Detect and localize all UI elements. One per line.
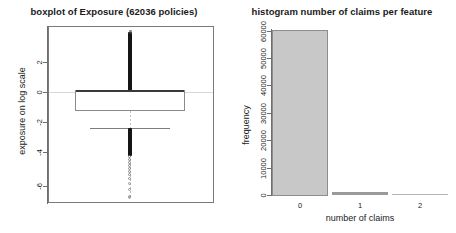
histogram-bar-0 — [272, 30, 328, 196]
histogram-ytick-label-0: 0 — [259, 183, 268, 209]
histogram-bar-2 — [392, 194, 448, 195]
boxplot-ytick-label-2: 2 — [35, 52, 44, 74]
boxplot-lower-outlier-cloud-dense — [128, 128, 132, 156]
histogram-xtick-label-0: 0 — [290, 201, 310, 210]
boxplot-upper-outlier-tip — [129, 30, 132, 34]
boxplot-extreme-outlier-point — [128, 196, 131, 199]
boxplot-panel: boxplot of Exposure (62036 policies) exp… — [0, 0, 228, 233]
boxplot-y-axis-title: exposure on log scale — [17, 51, 27, 171]
boxplot-outlier-point — [128, 177, 131, 180]
figure-canvas: boxplot of Exposure (62036 policies) exp… — [0, 0, 456, 233]
histogram-xtick-label-2: 2 — [410, 201, 430, 210]
boxplot-outlier-point — [128, 173, 131, 176]
boxplot-ytick-label-0: 0 — [35, 82, 44, 104]
boxplot-ytick-label-neg2: -2 — [35, 111, 44, 135]
boxplot-outlier-point — [128, 182, 131, 185]
histogram-bar-1 — [332, 192, 388, 195]
boxplot-median-line — [76, 90, 184, 92]
boxplot-outlier-point — [128, 188, 131, 191]
boxplot-ytick-label-neg4: -4 — [35, 141, 44, 165]
boxplot-box — [75, 90, 185, 111]
histogram-y-axis-title: frequency — [241, 80, 251, 170]
histogram-panel: histogram number of claims per feature f… — [228, 0, 456, 233]
boxplot-ytick-label-neg6: -6 — [35, 175, 44, 199]
histogram-ytick-label-60000: 60000 — [259, 15, 268, 49]
histogram-xtick-label-1: 1 — [350, 201, 370, 210]
boxplot-title: boxplot of Exposure (62036 policies) — [0, 6, 228, 17]
histogram-x-axis-title: number of claims — [272, 213, 448, 223]
boxplot-upper-outlier-cloud — [128, 32, 132, 99]
boxplot-plot-area — [49, 27, 213, 202]
